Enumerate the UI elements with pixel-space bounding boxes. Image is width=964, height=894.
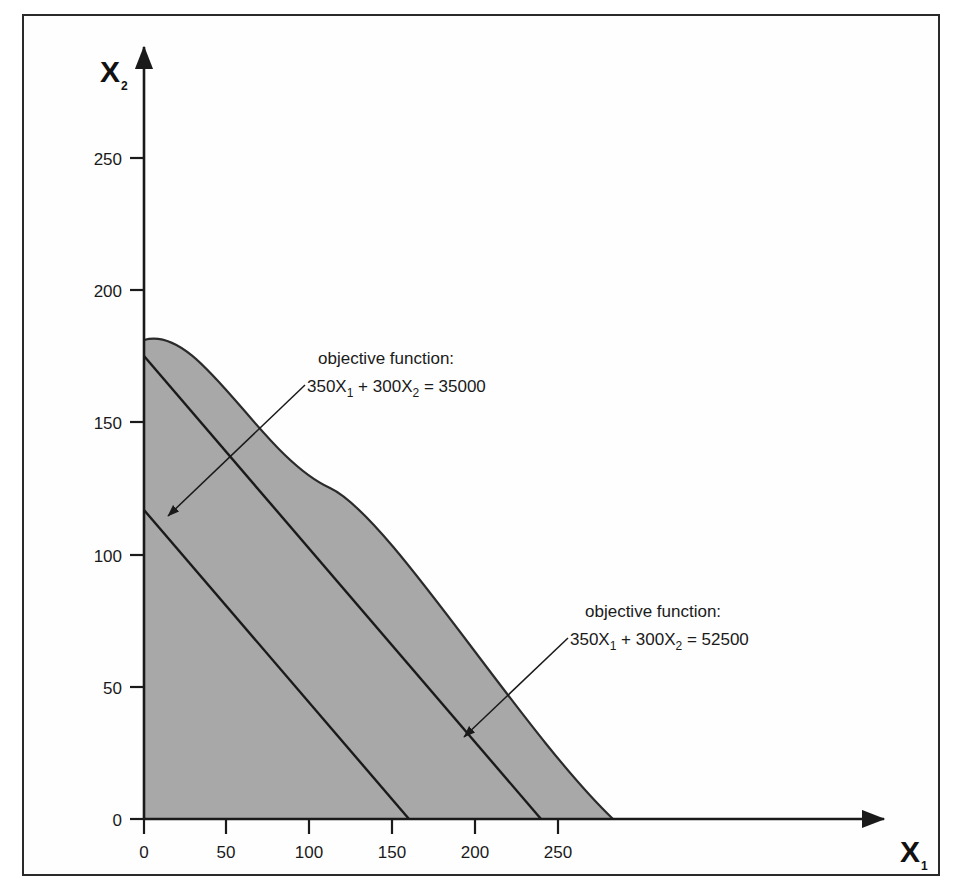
y-tick-label-50: 50 (103, 679, 122, 698)
y-axis-title: X2 (100, 55, 128, 93)
x-tick-label-150: 150 (378, 843, 406, 862)
annotation-2-equation: 350X1 + 300X2 = 52500 (570, 630, 749, 653)
annotation-1-line1: objective function: (318, 349, 454, 368)
y-tick-label-150: 150 (94, 414, 122, 433)
y-tick-label-200: 200 (94, 282, 122, 301)
x-tick-label-50: 50 (217, 843, 236, 862)
x-tick-label-0: 0 (139, 843, 148, 862)
x-tick-label-250: 250 (544, 843, 572, 862)
y-tick-label-250: 250 (94, 150, 122, 169)
x-tick-label-200: 200 (461, 843, 489, 862)
y-tick-label-100: 100 (94, 547, 122, 566)
annotation-2-line1: objective function: (585, 602, 721, 621)
x-axis-title: X1 (900, 835, 928, 873)
plot-svg: 0 50 100 150 200 250 0 50 100 150 200 25… (0, 0, 964, 894)
x-tick-label-100: 100 (295, 843, 323, 862)
y-axis-ticks (130, 158, 144, 819)
feasible-region (144, 338, 613, 819)
annotation-1-equation: 350X1 + 300X2 = 35000 (307, 377, 486, 400)
y-tick-label-0: 0 (113, 811, 122, 830)
figure-canvas: 0 50 100 150 200 250 0 50 100 150 200 25… (0, 0, 964, 894)
x-axis-ticks (144, 819, 558, 834)
